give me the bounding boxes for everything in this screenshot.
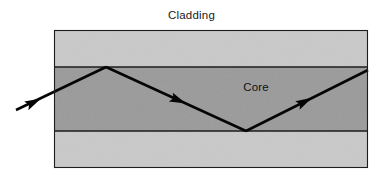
core-band bbox=[54, 67, 368, 131]
figure-root: Cladding Core bbox=[0, 0, 383, 181]
cladding-top-band bbox=[54, 30, 368, 67]
fiber-optic-diagram bbox=[0, 0, 383, 181]
cladding-label-text: Cladding bbox=[168, 9, 215, 21]
cladding-label: Cladding bbox=[0, 9, 383, 22]
fiber-cross-section bbox=[54, 30, 368, 168]
cladding-bottom-band bbox=[54, 131, 368, 168]
core-label-text: Core bbox=[243, 81, 269, 93]
core-label: Core bbox=[232, 81, 280, 94]
